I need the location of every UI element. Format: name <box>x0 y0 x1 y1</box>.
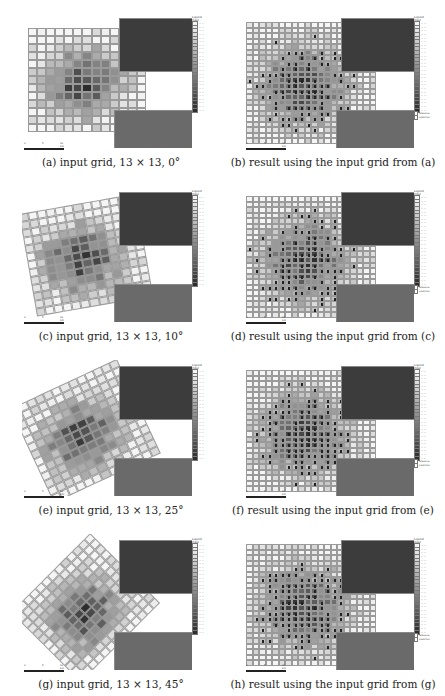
legend: LegendInput— —— —— —— —— —— —— —— —— —— … <box>414 16 444 119</box>
grid-cell <box>46 100 55 108</box>
legend-range-label: — — <box>199 591 204 594</box>
grid-cell <box>28 36 37 44</box>
legend-range-label: — — <box>199 279 204 282</box>
scale-bar-label: 10 km <box>282 316 286 322</box>
grid-cell <box>149 446 161 457</box>
caption-f: (f) result using the input grid from (e) <box>222 504 444 516</box>
scale-bar: 0510 km <box>24 142 64 152</box>
inset-map-top <box>119 366 192 420</box>
legend-range-label: — — <box>421 211 426 214</box>
grid-cell <box>82 84 91 92</box>
legend-range-label: — — <box>421 562 426 565</box>
grid-cell <box>73 68 82 76</box>
grid-cell <box>28 92 37 100</box>
grid-cell <box>82 116 91 124</box>
grid-cell <box>137 92 146 100</box>
grid-cell <box>92 52 101 60</box>
inset-map-top <box>341 540 414 594</box>
legend-range-label: — — <box>199 417 204 420</box>
grid-cell <box>82 28 91 36</box>
scale-bar-label: 10 km <box>60 490 64 496</box>
grid-cell <box>128 92 137 100</box>
legend-range-label: — — <box>199 548 204 551</box>
legend-range-label: — — <box>199 265 204 268</box>
grid-cell <box>37 116 46 124</box>
grid-cell <box>137 100 146 108</box>
scale-bar-label: 0 <box>24 490 26 493</box>
legend-range-label: — — <box>421 435 426 438</box>
grid-cell <box>110 28 119 36</box>
legend-range-label: — — <box>421 577 426 580</box>
legend-range-label: — — <box>421 55 426 58</box>
legend-range-label: — — <box>199 431 204 434</box>
grid-cell <box>37 124 46 132</box>
grid-cell <box>28 84 37 92</box>
map-a <box>22 12 192 148</box>
grid-cell <box>73 44 82 52</box>
grid-cell <box>55 68 64 76</box>
legend-range-label: — — <box>421 410 426 413</box>
legend-range-label: — — <box>421 584 426 587</box>
legend-range-label: — — <box>199 29 204 32</box>
inset-map-bot <box>114 632 192 670</box>
legend-range-label: — — <box>421 573 426 576</box>
legend: LegendInput— —— —— —— —— —— —— —— —— —— … <box>192 190 222 286</box>
scale-bar-label: 5 <box>42 142 44 145</box>
grid-cell <box>73 116 82 124</box>
grid-cell <box>73 100 82 108</box>
legend-range-label: — — <box>421 203 426 206</box>
grid-cell <box>37 52 46 60</box>
legend-entry: — — <box>192 456 222 460</box>
legend-swatch <box>192 282 198 287</box>
grid-cell <box>73 84 82 92</box>
grid-cell <box>64 28 73 36</box>
legend-range-label: — — <box>421 221 426 224</box>
legend-range-label: — — <box>199 562 204 565</box>
legend-range-label: — — <box>199 73 204 76</box>
legend-range-label: — — <box>421 83 426 86</box>
legend-range-label: — — <box>421 431 426 434</box>
grid-cell <box>92 84 101 92</box>
scale-bar-label: 0 <box>24 316 26 319</box>
legend-range-label: — — <box>199 55 204 58</box>
legend-label: reference <box>419 112 429 115</box>
grid-cell <box>101 92 110 100</box>
scale-bar-line <box>24 670 64 672</box>
grid-cell <box>137 76 146 84</box>
map-h <box>244 534 414 670</box>
legend-range-label: — — <box>199 410 204 413</box>
grid-cell <box>101 76 110 84</box>
grid-cell <box>64 124 73 132</box>
legend-range-label: — — <box>421 428 426 431</box>
legend-range-label: — — <box>421 446 426 449</box>
legend-range-label: — — <box>199 424 204 427</box>
grid-cell <box>110 76 119 84</box>
grid-cell <box>92 68 101 76</box>
grid-cell <box>101 100 110 108</box>
legend-entry: — — <box>192 282 222 286</box>
legend-range-label: — — <box>421 51 426 54</box>
grid-cell <box>92 44 101 52</box>
legend-range-label: — — <box>421 392 426 395</box>
grid-cell <box>92 92 101 100</box>
legend-label: reference <box>419 634 429 637</box>
legend-range-label: — — <box>421 377 426 380</box>
legend-range-label: — — <box>421 631 426 634</box>
scale-bar-label: 10 km <box>282 664 286 670</box>
grid-cell <box>28 44 37 52</box>
scale-bar-line <box>24 496 64 498</box>
legend-range-label: — — <box>421 62 426 65</box>
grid-cell <box>101 68 110 76</box>
legend-range-label: — — <box>199 605 204 608</box>
legend-entry: — — <box>192 630 222 634</box>
legend-range-label: — — <box>421 22 426 25</box>
grid-cell <box>55 44 64 52</box>
map-f <box>244 360 414 496</box>
grid-cell <box>37 44 46 52</box>
legend-range-label: — — <box>199 69 204 72</box>
caption-d: (d) result using the input grid from (c) <box>222 330 444 342</box>
grid-cell <box>55 52 64 60</box>
legend-range-label: — — <box>199 275 204 278</box>
grid-cell <box>64 60 73 68</box>
legend-range-label: — — <box>199 392 204 395</box>
